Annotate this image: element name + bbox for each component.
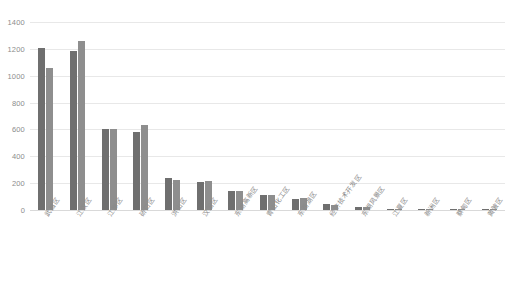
y-axis-tick-labels: 0200400600800100012001400	[0, 22, 30, 210]
bar-group[interactable]	[378, 22, 410, 210]
bar[interactable]	[102, 129, 109, 210]
x-axis-tick-cell: 江夏区	[378, 211, 410, 281]
bar-group[interactable]	[220, 22, 252, 210]
bar-groups	[30, 22, 505, 210]
bar-group[interactable]	[410, 22, 442, 210]
x-axis-tick-labels: 武昌区江汉区江岸区硚口区洪山区汉阳区东湖高新区青山化工区东西湖区经济技术开发区东…	[30, 211, 505, 281]
y-axis-tick-label: 600	[12, 125, 25, 134]
y-axis-tick-label: 400	[12, 152, 25, 161]
x-axis-tick-cell: 新洲区	[410, 211, 442, 281]
x-axis-tick-cell: 东西湖区	[283, 211, 315, 281]
x-axis-tick-cell: 青山化工区	[252, 211, 284, 281]
x-axis-tick-cell: 东湖风景区	[347, 211, 379, 281]
bar-chart: 0200400600800100012001400 武昌区江汉区江岸区硚口区洪山…	[0, 0, 512, 282]
bar-group[interactable]	[125, 22, 157, 210]
bar-group[interactable]	[283, 22, 315, 210]
y-axis-tick-label: 0	[21, 206, 25, 215]
x-axis-tick-cell: 汉阳区	[188, 211, 220, 281]
bar-group[interactable]	[473, 22, 505, 210]
bar[interactable]	[133, 132, 140, 210]
bar[interactable]	[355, 207, 362, 210]
y-axis-tick-label: 200	[12, 179, 25, 188]
x-axis-tick-cell: 东湖高新区	[220, 211, 252, 281]
bar[interactable]	[197, 182, 204, 210]
bar[interactable]	[78, 41, 85, 210]
y-axis-tick-label: 1000	[8, 71, 26, 80]
x-axis-tick-cell: 江汉区	[62, 211, 94, 281]
y-axis-tick-label: 1400	[8, 18, 26, 27]
bar[interactable]	[141, 125, 148, 210]
bar-group[interactable]	[157, 22, 189, 210]
y-axis-tick-label: 1200	[8, 44, 26, 53]
bar[interactable]	[292, 199, 299, 210]
bar-group[interactable]	[442, 22, 474, 210]
bar-group[interactable]	[62, 22, 94, 210]
x-axis-tick-cell: 武昌区	[30, 211, 62, 281]
bar[interactable]	[165, 178, 172, 210]
bar-group[interactable]	[315, 22, 347, 210]
bar-group[interactable]	[30, 22, 62, 210]
x-axis-tick-cell: 蔡甸区	[442, 211, 474, 281]
bar[interactable]	[323, 204, 330, 210]
bar[interactable]	[38, 48, 45, 210]
y-axis-tick-label: 800	[12, 98, 25, 107]
bar-group[interactable]	[93, 22, 125, 210]
x-axis-tick-cell: 洪山区	[157, 211, 189, 281]
bar[interactable]	[46, 68, 53, 210]
x-axis-tick-cell: 硚口区	[125, 211, 157, 281]
bar[interactable]	[70, 51, 77, 210]
bar[interactable]	[228, 191, 235, 210]
x-axis-tick-cell: 江岸区	[93, 211, 125, 281]
x-axis-tick-cell: 黄陂区	[473, 211, 505, 281]
x-axis-tick-cell: 经济技术开发区	[315, 211, 347, 281]
bar-group[interactable]	[188, 22, 220, 210]
bar-group[interactable]	[252, 22, 284, 210]
bar[interactable]	[260, 195, 267, 210]
